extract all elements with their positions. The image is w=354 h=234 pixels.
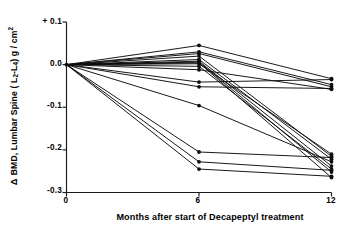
plot-area xyxy=(0,0,354,234)
data-point-subject-15-m12 xyxy=(330,156,334,160)
data-point-subject-17-m12 xyxy=(330,174,334,178)
x-axis-tick-marks xyxy=(67,193,332,197)
data-point-subject-13-m6 xyxy=(197,85,201,89)
data-point-origin-m0 xyxy=(65,63,69,67)
y-axis-tick-marks xyxy=(63,22,67,193)
data-point-subject-12-m6 xyxy=(197,80,201,84)
bmd-lumbar-spine-chart: Δ BMD, Lumbar Spine ( L2-L4) g / cm2 + 0… xyxy=(0,0,354,234)
data-point-subject-14-m6 xyxy=(197,104,201,108)
series-line-subject-14 xyxy=(67,65,332,162)
data-point-subject-1-m6 xyxy=(197,44,201,48)
data-point-subject-15-m6 xyxy=(197,150,201,154)
data-point-subject-13-m12 xyxy=(330,87,334,91)
data-point-subject-12-m12 xyxy=(330,78,334,82)
data-point-subject-9-m12 xyxy=(330,152,334,156)
data-point-subject-17-m6 xyxy=(197,167,201,171)
data-point-subject-16-m12 xyxy=(330,168,334,172)
data-point-subject-4-m6 xyxy=(197,54,201,58)
data-point-subject-10-m6 xyxy=(197,64,201,68)
axes-group xyxy=(63,22,332,197)
data-point-subject-11-m6 xyxy=(197,68,201,72)
data-point-subject-14-m12 xyxy=(330,160,334,164)
data-point-subject-16-m6 xyxy=(197,160,201,164)
